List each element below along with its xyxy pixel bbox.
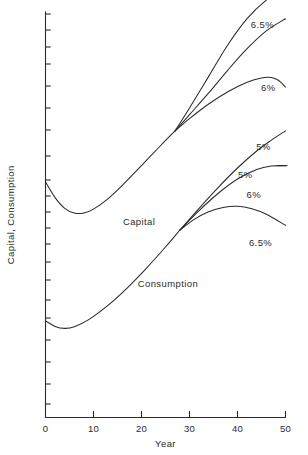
rate-label-5-4: 5% [256, 141, 271, 152]
x-axis-title: Year [155, 438, 176, 449]
curve-capital [46, 131, 176, 214]
rate-label-65-2: 6.5% [251, 19, 274, 30]
x-tick-label-10: 10 [88, 423, 99, 434]
rate-label-6-6: 6% [247, 189, 262, 200]
axes-group [46, 12, 288, 418]
rate-label-6-3: 6% [261, 82, 276, 93]
chart-figure: 01020304050 Year Capital, Consumption Ca… [0, 0, 308, 455]
curve-consumption-6-5 [180, 206, 286, 230]
rate-label-65-7: 6.5% [249, 237, 272, 248]
x-tick-label-0: 0 [43, 423, 49, 434]
x-axis-tick-labels: 01020304050 [43, 423, 291, 434]
x-tick-label-30: 30 [184, 423, 195, 434]
chart-canvas: 01020304050 Year Capital, Consumption Ca… [0, 0, 308, 455]
y-axis-title: Capital, Consumption [5, 165, 16, 264]
x-tick-label-40: 40 [232, 423, 243, 434]
curve-label-capital-0: Capital [123, 216, 155, 227]
y-axis-ticks [46, 14, 51, 404]
x-axis-ticks [94, 411, 286, 418]
x-tick-label-50: 50 [280, 423, 291, 434]
curve-label-consumption-1: Consumption [138, 278, 198, 289]
curve-capital-6 [175, 19, 285, 131]
rate-label-5-5: 5% [238, 169, 253, 180]
x-tick-label-20: 20 [136, 423, 147, 434]
curve-annotations-group: CapitalConsumption6.5%6%5%5%6%6.5% [123, 19, 276, 289]
curve-consumption-6 [180, 166, 286, 230]
